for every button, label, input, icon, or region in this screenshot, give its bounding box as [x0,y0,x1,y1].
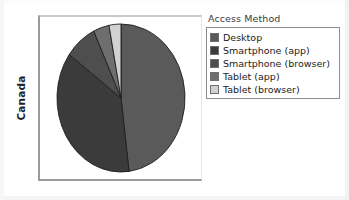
pie-chart-svg [55,22,187,174]
legend-swatch-tablet-app [210,72,219,81]
legend-item[interactable]: Smartphone (app) [210,44,335,56]
legend-item-label: Desktop [223,32,262,43]
pie-slice[interactable] [121,24,185,171]
legend-item[interactable]: Tablet (browser) [210,83,335,95]
legend-swatch-smartphone-app [210,46,219,55]
page-edge-bottom [0,196,349,200]
legend-item[interactable]: Tablet (app) [210,70,335,82]
legend-item[interactable]: Desktop [210,31,335,43]
legend-item-label: Smartphone (app) [223,45,310,56]
page-edge-right [345,0,349,200]
page-edge-left [0,0,4,200]
pie-chart [55,22,187,174]
chart-page: Canada Access Method DesktopSmartphone (… [0,0,349,200]
y-axis-label: Canada [15,75,27,120]
page-edge-top [0,0,349,3]
legend-item-label: Smartphone (browser) [223,58,330,69]
legend-swatch-smartphone-browser [210,59,219,68]
legend-swatch-desktop [210,33,219,42]
legend: Access Method DesktopSmartphone (app)Sma… [206,13,340,99]
pie-slice-group [57,24,185,172]
legend-item-label: Tablet (browser) [223,84,300,95]
y-axis-label-container: Canada [8,15,34,181]
legend-box: DesktopSmartphone (app)Smartphone (brows… [206,27,340,99]
legend-title: Access Method [208,13,340,24]
legend-swatch-tablet-browser [210,85,219,94]
legend-item[interactable]: Smartphone (browser) [210,57,335,69]
legend-item-label: Tablet (app) [223,71,280,82]
